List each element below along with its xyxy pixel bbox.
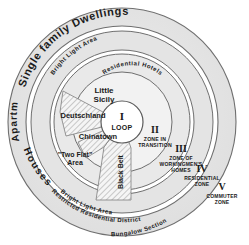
zone-ii-name-line2: TRANSITION xyxy=(138,142,172,148)
two-flat-area-line1: "Two Flat" xyxy=(58,151,93,158)
two-flat-area-line2: Area xyxy=(67,159,83,166)
zone-i-roman: I xyxy=(120,110,124,122)
burgess-zone-model-svg: Single family Dwellings Apartment Houses… xyxy=(0,0,249,245)
district-little-sicily: Little Sicily xyxy=(94,86,115,104)
zone-iii-roman: III xyxy=(175,143,187,154)
zone-iv-name-line2: ZONE xyxy=(195,181,210,187)
district-deutschland: Deutschland xyxy=(60,111,105,120)
district-black-belt: Black Belt xyxy=(117,154,124,189)
district-chinatown: Chinatown xyxy=(79,132,118,141)
label-apartment: Apartment xyxy=(0,0,21,143)
little-sicily-line1: Little xyxy=(94,86,114,95)
zone-iv-roman: IV xyxy=(196,163,208,174)
concentric-zone-diagram: Single family Dwellings Apartment Houses… xyxy=(0,0,249,245)
little-sicily-line2: Sicily xyxy=(94,95,115,104)
zone-ii-roman: II xyxy=(151,124,159,135)
zone-iii-name-line3: HOMES xyxy=(171,167,191,173)
zone-v-name-line2: ZONE xyxy=(215,199,230,205)
zone-v-roman: V xyxy=(218,181,226,192)
zone-i-name: LOOP xyxy=(111,124,132,131)
